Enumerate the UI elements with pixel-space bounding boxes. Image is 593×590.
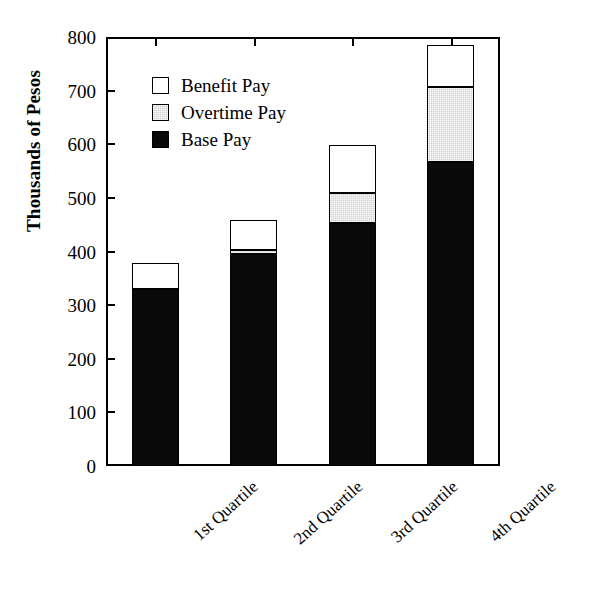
legend-item-benefit-pay: Benefit Pay: [152, 72, 286, 98]
x-tick-mark: [352, 37, 354, 46]
bar-segment-base-pay[interactable]: [329, 223, 376, 466]
bar-segment-overtime-pay[interactable]: [427, 87, 474, 162]
chart-legend: Benefit Pay Overtime Pay Base Pay: [152, 72, 286, 153]
y-tick-mark: [106, 304, 115, 306]
stacked-bar-chart: Thousands of Pesos 010020030040050060070…: [0, 0, 593, 590]
y-tick-mark: [106, 197, 115, 199]
legend-label-benefit-pay: Benefit Pay: [181, 76, 270, 95]
bar-segment-benefit-pay[interactable]: [329, 145, 376, 192]
bar-segment-overtime-pay[interactable]: [329, 193, 376, 223]
bar-segment-benefit-pay[interactable]: [132, 263, 179, 289]
y-tick-mark: [106, 411, 115, 413]
legend-label-overtime-pay: Overtime Pay: [181, 103, 286, 122]
gray-square-icon: [152, 104, 169, 121]
y-tick-label: 700: [26, 81, 96, 100]
x-tick-mark: [155, 37, 157, 46]
bar-segment-base-pay[interactable]: [230, 254, 277, 466]
y-tick-label: 800: [26, 28, 96, 47]
y-tick-label: 200: [26, 349, 96, 368]
bar-4[interactable]: [427, 45, 474, 466]
y-tick-label: 100: [26, 403, 96, 422]
y-tick-mark: [106, 251, 115, 253]
bar-2[interactable]: [230, 220, 277, 466]
y-tick-mark: [106, 143, 115, 145]
x-axis-label-2: 2nd Quartile: [290, 477, 367, 549]
legend-label-base-pay: Base Pay: [181, 130, 251, 149]
y-tick-label: 0: [26, 457, 96, 476]
bar-segment-benefit-pay[interactable]: [230, 220, 277, 250]
x-axis-label-1: 1st Quartile: [190, 477, 263, 545]
bar-segment-benefit-pay[interactable]: [427, 45, 474, 87]
y-tick-label: 500: [26, 188, 96, 207]
bar-1[interactable]: [132, 263, 179, 466]
x-axis-label-3: 3rd Quartile: [387, 477, 462, 547]
y-tick-label: 400: [26, 242, 96, 261]
black-square-icon: [152, 131, 169, 148]
x-tick-mark: [254, 37, 256, 46]
y-tick-label: 300: [26, 296, 96, 315]
y-tick-mark: [106, 358, 115, 360]
bar-3[interactable]: [329, 145, 376, 466]
bar-segment-base-pay[interactable]: [427, 162, 474, 466]
x-axis-label-4: 4th Quartile: [486, 477, 560, 547]
bar-segment-base-pay[interactable]: [132, 289, 179, 466]
white-square-icon: [152, 77, 169, 94]
bar-segment-overtime-pay[interactable]: [230, 250, 277, 253]
legend-item-overtime-pay: Overtime Pay: [152, 99, 286, 125]
legend-item-base-pay: Base Pay: [152, 126, 286, 152]
y-tick-mark: [106, 90, 115, 92]
y-tick-label: 600: [26, 135, 96, 154]
